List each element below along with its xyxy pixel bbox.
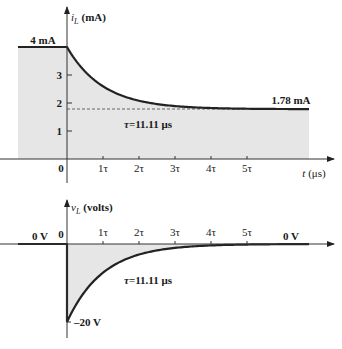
- voltage-y-axis-label: vL(volts): [71, 201, 113, 216]
- x-tick-5tau: 5τ: [242, 162, 253, 174]
- x-tick-2tau: 2τ: [134, 162, 145, 174]
- y-tick-3: 3: [57, 69, 63, 81]
- voltage-peak-label: –20 V: [73, 316, 101, 328]
- current-tau-label: τ=11.11 μs: [124, 118, 173, 130]
- voltage-chart: 0 1τ 2τ 3τ 4τ 5τ vL(volts) 0 V 0 V –20 V…: [0, 200, 334, 338]
- chart-canvas: 3 2 1 0 1τ 2τ 3τ 4τ 5τ iL(mA) t (μs) 4 m…: [0, 0, 342, 349]
- v-x-tick-5tau: 5τ: [242, 226, 253, 238]
- v-x-tick-1tau: 1τ: [98, 226, 109, 238]
- x-tick-4tau: 4τ: [206, 162, 217, 174]
- x-tick-1tau: 1τ: [98, 162, 109, 174]
- voltage-tau-label: τ=11.11 μs: [124, 274, 173, 286]
- voltage-origin-label: 0: [58, 228, 64, 240]
- x-tick-3tau: 3τ: [170, 162, 181, 174]
- v-x-tick-2tau: 2τ: [134, 226, 145, 238]
- y-tick-2: 2: [57, 97, 63, 109]
- initial-current-label: 4 mA: [30, 34, 55, 46]
- current-chart: 3 2 1 0 1τ 2τ 3τ 4τ 5τ iL(mA) t (μs) 4 m…: [0, 7, 334, 183]
- voltage-shaded-area: [67, 244, 309, 322]
- v-x-tick-4tau: 4τ: [206, 226, 217, 238]
- current-x-axis-label: t (μs): [302, 167, 326, 180]
- final-current-label: 1.78 mA: [271, 94, 310, 106]
- y-tick-1: 1: [57, 125, 63, 137]
- voltage-left-0v-label: 0 V: [32, 230, 48, 242]
- v-x-tick-3tau: 3τ: [170, 226, 181, 238]
- x-origin-label: 0: [58, 162, 64, 174]
- current-y-axis-label: iL(mA): [71, 11, 106, 26]
- voltage-right-0v-label: 0 V: [283, 230, 299, 242]
